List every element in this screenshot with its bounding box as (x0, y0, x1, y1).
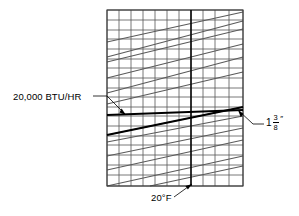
pipe-size-unit: ″ (280, 114, 283, 123)
pipe-size-fraction: 3 8 (273, 114, 279, 131)
vertical-gridlines (107, 10, 243, 186)
pipe-size-denominator: 8 (273, 124, 279, 132)
highlight-diagonal-curve (107, 107, 243, 135)
horizontal-gridlines (107, 10, 243, 186)
temperature-label: 20°F (151, 192, 172, 203)
load-label: 20,000 BTU/HR (13, 91, 81, 102)
plot-border (107, 10, 243, 186)
load-leader-line (93, 96, 126, 115)
pipe-size-numerator: 3 (273, 114, 279, 122)
pipe-size-whole: 1 (266, 118, 272, 128)
pipe-size-leader-line (238, 110, 264, 124)
capacity-curves (107, 12, 243, 186)
nomograph-figure (0, 0, 299, 216)
pipe-size-label: 1 3 8 ″ (266, 114, 283, 131)
